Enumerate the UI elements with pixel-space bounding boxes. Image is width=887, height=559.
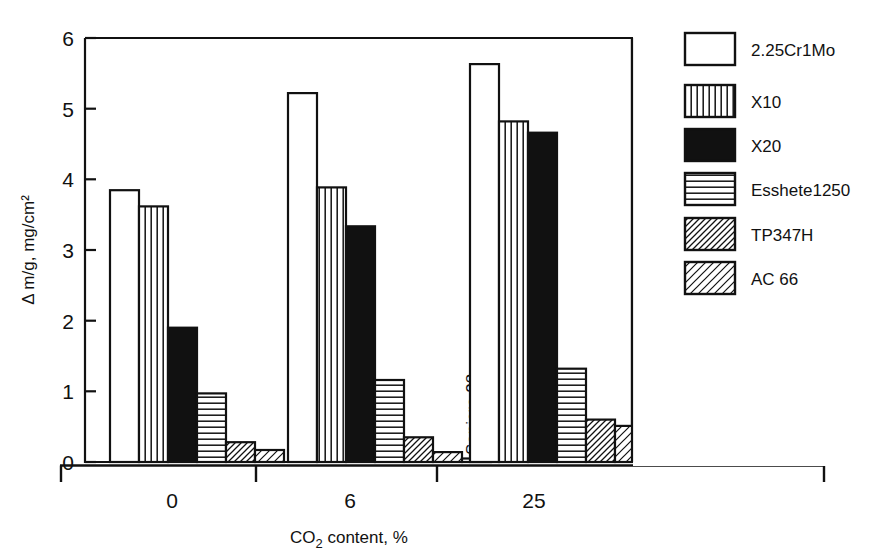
bar-X10-g0	[139, 206, 168, 462]
bar-AC66-g0	[255, 450, 284, 462]
x-axis-title-sub: 2	[316, 536, 323, 551]
x-tick-label: 0	[166, 489, 178, 512]
legend-swatch-2.25Cr1Mo	[685, 33, 735, 65]
x-tick-label: 25	[522, 489, 545, 512]
legend-label-Esshete1250: Esshete1250	[751, 181, 850, 200]
bar-chart-svg: 6 5 4 3 2 1 0 Δ m/g, mg/cm² 0 6 25	[0, 0, 887, 559]
y-tick-label: 0	[62, 451, 74, 474]
legend-swatch-AC66	[685, 262, 735, 294]
bar-AC66-g1	[433, 452, 462, 462]
legend-label-2.25Cr1Mo: 2.25Cr1Mo	[751, 41, 835, 60]
bar-Esshete1250-g1	[375, 380, 404, 462]
bar-X20-g2	[528, 133, 557, 462]
legend-swatch-TP347H	[685, 218, 735, 250]
legend-label-X10: X10	[751, 93, 781, 112]
y-tick-label: 2	[62, 310, 74, 333]
bar-X10-g2	[499, 121, 528, 462]
bar-TP347H-g1	[404, 437, 433, 462]
legend-label-AC66: AC 66	[751, 270, 798, 289]
bar-2.25Cr1Mo-g2	[470, 64, 499, 462]
bar-Esshete1250-g2	[557, 369, 586, 462]
y-tick-label: 6	[62, 27, 74, 50]
y-axis-title-text: Δ m/g, mg/cm²	[19, 195, 38, 305]
bar-X10-g1	[317, 187, 346, 462]
y-tick-label: 3	[62, 239, 74, 262]
bar-X20-g1	[346, 226, 375, 462]
legend-swatch-X20	[685, 129, 735, 161]
bar-X20-g0	[168, 328, 197, 462]
y-axis-title: Δ m/g, mg/cm²	[19, 195, 38, 305]
x-tick-label: 6	[344, 489, 356, 512]
chart-figure: 6 5 4 3 2 1 0 Δ m/g, mg/cm² 0 6 25	[0, 0, 887, 559]
x-axis-title-pre: CO	[290, 528, 316, 547]
y-tick-label: 1	[62, 380, 74, 403]
legend-label-X20: X20	[751, 137, 781, 156]
y-tick-label: 5	[62, 98, 74, 121]
legend-swatch-X10	[685, 85, 735, 117]
x-axis-title-post: content, %	[323, 528, 408, 547]
bar-TP347H-g2	[586, 420, 615, 462]
bar-2.25Cr1Mo-g1	[288, 93, 317, 462]
y-tick-label: 4	[62, 168, 74, 191]
bar-TP347H-g0	[226, 442, 255, 462]
bar-Esshete1250-g0	[197, 393, 226, 462]
legend-label-TP347H: TP347H	[751, 226, 813, 245]
legend-swatch-Esshete1250	[685, 173, 735, 205]
bar-2.25Cr1Mo-g0	[110, 190, 139, 462]
